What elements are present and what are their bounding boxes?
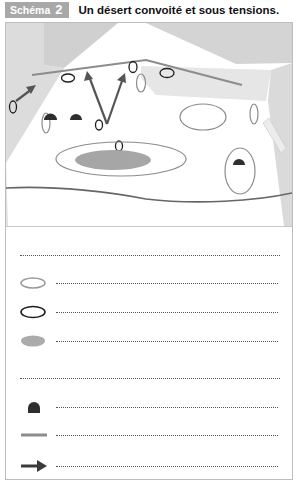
answer-line[interactable] [56,341,278,342]
filled-ellipse [75,150,151,170]
black-outline-ellipse-icon [19,305,47,319]
gray-ellipse-narrow-right [250,104,258,124]
schema-badge: Schéma 2 [5,2,69,18]
region-left-edge [6,163,8,226]
legend-row-filled-ellipse [6,334,292,348]
black-ellipse-1 [62,74,75,82]
badge-number: 2 [55,3,62,17]
dark-dome-icon [26,401,42,415]
arrow-icon-v-left [84,71,107,124]
dome-icon-3 [233,159,245,165]
answer-line[interactable] [56,283,278,284]
figure-header: Schéma 2 Un désert convoité et sous tens… [5,1,295,19]
legend-row-gray-ellipse [6,276,292,290]
gray-filled-ellipse-icon [19,334,47,348]
gray-ellipse-bottom-right [225,148,255,194]
answer-line[interactable] [56,312,278,313]
figure-title: Un désert convoité et sous tensions. [79,4,280,16]
schematic-map [6,23,292,226]
gray-ellipse-center-right [180,104,226,130]
dome-icon-1 [44,114,57,120]
gray-outline-ellipse-icon [19,276,47,290]
answer-line[interactable] [20,255,280,256]
answer-line[interactable] [56,435,278,436]
dome-icon-2 [70,114,82,120]
arrow-right-icon [19,459,49,473]
region-top-center [44,23,118,68]
legend-row-dome [6,401,292,415]
black-ellipse-5 [96,120,103,130]
gray-line-icon [19,429,49,443]
schema-frame [5,22,293,480]
legend-row-black-ellipse [6,305,292,319]
legend-row-line [6,429,292,443]
arrow-icon-v-right [107,73,126,124]
answer-line[interactable] [56,466,278,467]
answer-line[interactable] [56,407,278,408]
region-top-right [146,23,292,64]
answer-line[interactable] [20,378,280,379]
legend-row-heading-2 [6,372,292,386]
legend-row-heading-1 [6,249,292,263]
map-legend-separator [6,226,292,227]
badge-label: Schéma [10,3,50,17]
legend-row-arrow [6,459,292,473]
black-ellipse-2 [129,62,137,73]
